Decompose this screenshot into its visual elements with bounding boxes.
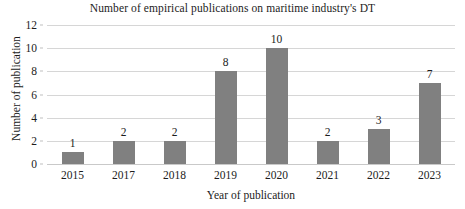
- bar-value-label: 8: [223, 56, 229, 68]
- x-axis-tick-label: 2017: [112, 168, 135, 182]
- y-axis-tick-mark: [40, 25, 43, 26]
- x-axis-tick-label: 2020: [265, 168, 288, 182]
- plot-area: 122810237: [47, 25, 455, 164]
- y-axis-tick-label: 4: [31, 112, 37, 124]
- x-axis-tick-label: 2018: [163, 168, 186, 182]
- bar-slot: 1: [47, 25, 98, 164]
- bar[interactable]: [164, 141, 186, 164]
- y-axis-tick-label: 8: [31, 65, 37, 77]
- bar-slot: 2: [302, 25, 353, 164]
- bar-value-label: 3: [376, 114, 382, 126]
- bar[interactable]: [317, 141, 339, 164]
- chart-title: Number of empirical publications on mari…: [0, 1, 465, 16]
- bar[interactable]: [113, 141, 135, 164]
- bar-chart-figure: Number of empirical publications on mari…: [0, 0, 465, 209]
- bar-value-label: 10: [271, 33, 283, 45]
- y-axis-tick-label: 2: [31, 135, 37, 147]
- y-axis-tick-mark: [40, 71, 43, 72]
- bar-value-label: 2: [121, 126, 127, 138]
- y-axis-tick-mark: [40, 164, 43, 165]
- bar-value-label: 2: [325, 126, 331, 138]
- y-axis-tick-mark: [40, 48, 43, 49]
- bar-value-label: 2: [172, 126, 178, 138]
- x-axis-tick-label: 2022: [367, 168, 390, 182]
- y-axis-tick-mark: [40, 117, 43, 118]
- bar[interactable]: [266, 48, 288, 164]
- y-axis-tick-label: 10: [26, 42, 38, 54]
- x-axis-tick-label: 2015: [61, 168, 84, 182]
- bar[interactable]: [215, 71, 237, 164]
- bars-layer: 122810237: [47, 25, 455, 164]
- x-axis-title: Year of publication: [47, 188, 455, 202]
- bar[interactable]: [62, 152, 84, 164]
- y-axis-tick-mark: [40, 140, 43, 141]
- bar-slot: 7: [404, 25, 455, 164]
- bar[interactable]: [368, 129, 390, 164]
- y-axis-tick-label: 0: [31, 158, 37, 170]
- bar-slot: 2: [149, 25, 200, 164]
- bar-value-label: 1: [70, 137, 76, 149]
- bar-slot: 3: [353, 25, 404, 164]
- y-axis-tick-label: 6: [31, 89, 37, 101]
- x-axis-tick-label: 2023: [418, 168, 441, 182]
- x-axis-tick-labels: 20152017201820192020202120222023: [47, 168, 455, 184]
- bar-slot: 8: [200, 25, 251, 164]
- bar-slot: 2: [98, 25, 149, 164]
- bar-slot: 10: [251, 25, 302, 164]
- y-axis-tick-labels: 024681012: [0, 25, 43, 164]
- bar-value-label: 7: [427, 68, 433, 80]
- bar[interactable]: [419, 83, 441, 164]
- x-axis-tick-label: 2019: [214, 168, 237, 182]
- x-axis-tick-label: 2021: [316, 168, 339, 182]
- gridline: [47, 164, 455, 165]
- y-axis-tick-label: 12: [26, 19, 38, 31]
- y-axis-tick-mark: [40, 94, 43, 95]
